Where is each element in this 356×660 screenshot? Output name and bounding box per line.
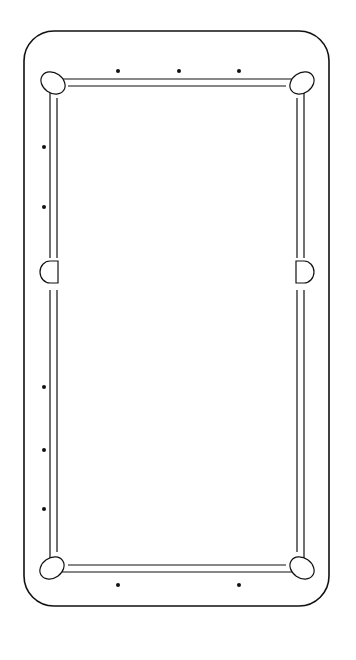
table-outer-frame bbox=[24, 31, 329, 606]
right-side-pocket bbox=[296, 261, 314, 283]
right-head-pocket bbox=[286, 552, 319, 583]
nine-ball-diagram bbox=[0, 0, 356, 660]
left-foot-pocket bbox=[37, 67, 70, 98]
left-side-pocket bbox=[40, 261, 58, 283]
right-foot-pocket bbox=[286, 67, 319, 98]
diamonds bbox=[42, 69, 241, 587]
cushions bbox=[50, 79, 304, 572]
left-head-pocket bbox=[36, 552, 69, 583]
